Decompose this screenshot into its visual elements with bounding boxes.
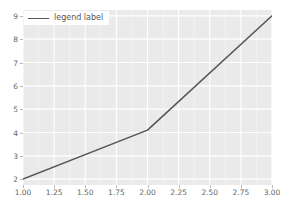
y-tick-mark [20, 86, 23, 87]
x-tick-label: 2.75 [233, 188, 250, 197]
x-tick-mark [241, 185, 242, 188]
y-tick-mark [20, 63, 23, 64]
x-tick-mark [179, 185, 180, 188]
data-series-line [23, 10, 272, 185]
x-tick-label: 1.50 [77, 188, 94, 197]
x-tick-mark [54, 185, 55, 188]
x-tick-label: 3.00 [264, 188, 281, 197]
y-tick-label: 2 [13, 175, 18, 184]
y-tick-mark [20, 109, 23, 110]
y-tick-label: 6 [13, 81, 18, 90]
x-tick-label: 2.25 [170, 188, 187, 197]
y-tick-label: 3 [13, 151, 18, 160]
x-tick-label: 1.00 [15, 188, 32, 197]
x-tick-mark [210, 185, 211, 188]
x-tick-label: 2.50 [201, 188, 218, 197]
y-tick-mark [20, 156, 23, 157]
y-tick-mark [20, 16, 23, 17]
x-tick-mark [23, 185, 24, 188]
y-tick-label: 9 [13, 11, 18, 20]
x-tick-label: 2.00 [139, 188, 156, 197]
plot-area [23, 10, 272, 185]
chart-legend[interactable]: legend label [24, 11, 109, 25]
y-tick-mark [20, 39, 23, 40]
x-tick-mark [148, 185, 149, 188]
chart-figure: 23456789 1.001.251.501.752.002.252.502.7… [0, 0, 292, 215]
y-tick-label: 8 [13, 35, 18, 44]
y-tick-mark [20, 179, 23, 180]
y-tick-label: 4 [13, 128, 18, 137]
x-tick-mark [116, 185, 117, 188]
legend-line-swatch [28, 18, 49, 19]
y-tick-label: 5 [13, 105, 18, 114]
x-tick-label: 1.25 [46, 188, 63, 197]
x-tick-label: 1.75 [108, 188, 125, 197]
y-tick-label: 7 [13, 58, 18, 67]
x-tick-mark [85, 185, 86, 188]
x-tick-mark [272, 185, 273, 188]
y-tick-mark [20, 133, 23, 134]
legend-label: legend label [54, 14, 103, 22]
